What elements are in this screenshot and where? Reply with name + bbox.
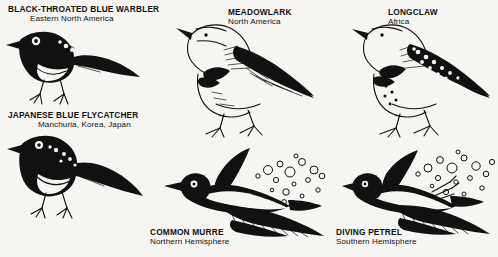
specimen-range: Manchuria, Korea, Japan <box>8 120 138 130</box>
illustration-black-throated-blue-warbler <box>4 24 144 108</box>
specimen-range: Eastern North America <box>8 14 159 24</box>
specimen-name: JAPANESE BLUE FLYCATCHER <box>8 110 138 120</box>
label-black-throated-blue-warbler: BLACK-THROATED BLUE WARBLER Eastern Nort… <box>8 4 159 24</box>
bubble-trail <box>416 150 495 196</box>
illustration-longclaw <box>352 16 492 138</box>
illustration-common-murre <box>172 146 342 242</box>
illustration-japanese-blue-flycatcher <box>4 130 144 222</box>
specimen-name: BLACK-THROATED BLUE WARBLER <box>8 4 159 14</box>
label-japanese-blue-flycatcher: JAPANESE BLUE FLYCATCHER Manchuria, Kore… <box>8 110 138 130</box>
illustration-meadowlark <box>176 16 316 138</box>
illustration-plate: BLACK-THROATED BLUE WARBLER Eastern Nort… <box>0 0 498 257</box>
illustration-diving-petrel <box>346 148 498 240</box>
